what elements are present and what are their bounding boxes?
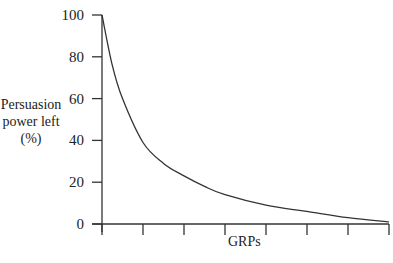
y-tick-label: 0 [77, 216, 85, 232]
y-axis-label-line: power left [0, 113, 62, 130]
x-axis-label: GRPs [228, 234, 261, 250]
y-tick-label: 100 [62, 7, 85, 23]
y-axis-label: Persuasion power left (%) [0, 96, 62, 147]
y-tick-label: 40 [69, 132, 84, 148]
decay-curve [102, 15, 389, 222]
y-axis-label-line: Persuasion [0, 96, 62, 113]
y-tick-label: 80 [69, 49, 84, 65]
y-axis-label-line: (%) [0, 130, 62, 147]
y-tick-label: 20 [69, 174, 84, 190]
y-tick-label: 60 [69, 91, 84, 107]
y-axis: 020406080100 [62, 7, 103, 232]
